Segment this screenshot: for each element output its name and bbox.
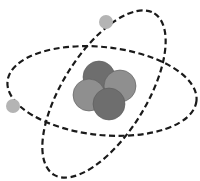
atom-svg — [0, 0, 200, 181]
nucleus — [73, 61, 136, 120]
electron-left — [6, 99, 20, 113]
nucleon-bottom — [93, 88, 125, 120]
electron-top — [99, 15, 113, 29]
atom-diagram: Atom model — [0, 0, 200, 181]
